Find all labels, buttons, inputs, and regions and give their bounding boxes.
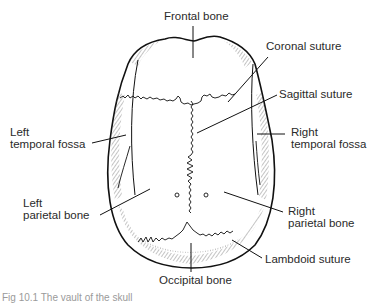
label-right-parietal-line2: parietal bone <box>288 217 355 230</box>
label-right-temporal-fossa-line2: temporal fossa <box>291 138 366 151</box>
label-lambdoid-suture: Lambdoid suture <box>265 253 351 266</box>
label-occipital-bone: Occipital bone <box>159 274 232 287</box>
label-coronal-suture: Coronal suture <box>266 40 341 53</box>
label-left-parietal-line2: parietal bone <box>23 209 90 222</box>
label-frontal-bone: Frontal bone <box>164 10 229 23</box>
label-sagittal-suture: Sagittal suture <box>279 88 353 101</box>
label-left-temporal-fossa-line2: temporal fossa <box>10 138 85 151</box>
figure-caption: Fig 10.1 The vault of the skull <box>2 292 132 303</box>
